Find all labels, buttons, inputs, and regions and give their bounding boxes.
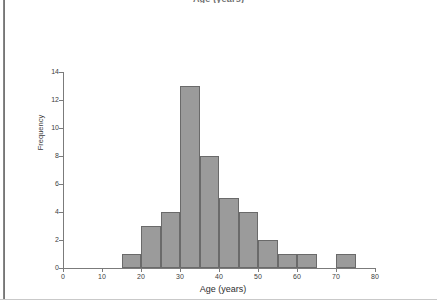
y-axis-tick bbox=[59, 156, 63, 157]
histogram-chart: Frequency 02468101214 Age (years) 010203… bbox=[0, 0, 437, 300]
x-axis-tick bbox=[258, 268, 259, 272]
x-axis-tick bbox=[336, 268, 337, 272]
histogram-bar bbox=[336, 254, 356, 268]
histogram-bar bbox=[219, 198, 239, 268]
y-axis-tick bbox=[59, 100, 63, 101]
y-axis-tick bbox=[59, 128, 63, 129]
histogram-bar bbox=[141, 226, 161, 268]
x-axis-tick-label: 40 bbox=[207, 273, 231, 280]
x-axis-title: Age (years) bbox=[63, 284, 383, 294]
histogram-bar bbox=[239, 212, 259, 268]
x-axis-tick-label: 30 bbox=[168, 273, 192, 280]
plot-area bbox=[0, 0, 437, 300]
x-axis-tick bbox=[375, 268, 376, 272]
y-axis-tick bbox=[59, 72, 63, 73]
x-axis-tick bbox=[297, 268, 298, 272]
x-axis-tick bbox=[63, 268, 64, 272]
y-axis-line bbox=[63, 72, 64, 269]
y-axis-tick bbox=[59, 212, 63, 213]
y-axis-tick bbox=[59, 184, 63, 185]
x-axis-tick-label: 10 bbox=[90, 273, 114, 280]
x-axis-tick-label: 80 bbox=[363, 273, 387, 280]
x-axis-tick-label: 0 bbox=[51, 273, 75, 280]
x-axis-tick bbox=[141, 268, 142, 272]
x-axis-tick-label: 70 bbox=[324, 273, 348, 280]
histogram-bar bbox=[258, 240, 278, 268]
x-axis-tick-label: 60 bbox=[285, 273, 309, 280]
histogram-bar bbox=[278, 254, 298, 268]
x-axis-tick bbox=[102, 268, 103, 272]
scanned-page: Age (years) Frequency 02468101214 Age (y… bbox=[0, 0, 437, 300]
x-axis-tick-label: 50 bbox=[246, 273, 270, 280]
x-axis-tick bbox=[219, 268, 220, 272]
x-axis-tick bbox=[180, 268, 181, 272]
histogram-bar bbox=[200, 156, 220, 268]
histogram-bar bbox=[122, 254, 142, 268]
y-axis-tick bbox=[59, 240, 63, 241]
x-axis-tick-label: 20 bbox=[129, 273, 153, 280]
histogram-bar bbox=[297, 254, 317, 268]
histogram-bar bbox=[161, 212, 181, 268]
histogram-bar bbox=[180, 86, 200, 268]
